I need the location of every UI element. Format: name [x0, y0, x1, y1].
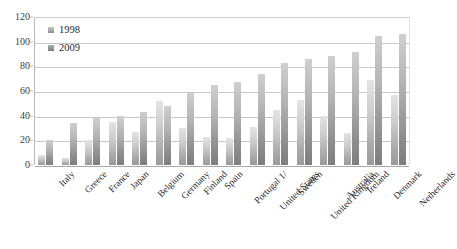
x-tick-label: Japan [129, 169, 151, 191]
y-tick-label: 40 [20, 111, 30, 121]
bar-group [316, 17, 340, 165]
bar-1998-united-kingdom [297, 100, 304, 165]
bar-group [175, 17, 199, 165]
bar-group [199, 17, 223, 165]
y-tick-label: 100 [15, 37, 30, 47]
bar-group [246, 17, 270, 165]
bar-2009-japan [117, 116, 124, 165]
legend-entry-2009: 2009 [48, 39, 118, 56]
y-tick-label: 60 [20, 86, 30, 96]
bar-1998-italy [38, 155, 45, 165]
bar-1998-spain [203, 137, 210, 165]
bar-2009-finland [187, 93, 194, 165]
bar-1998-belgium [132, 132, 139, 165]
bar-1998-united-states [250, 127, 257, 165]
bar-2009-ireland [352, 52, 359, 165]
bar-2009-united-states [258, 74, 265, 165]
bar-group [222, 17, 246, 165]
x-tick-label: France [106, 169, 131, 194]
bar-2009-netherlands [399, 34, 406, 165]
bar-1998-japan [109, 122, 116, 165]
bar-group [363, 17, 387, 165]
bar-1998-finland [179, 128, 186, 165]
bar-2009-united-kingdom [305, 59, 312, 165]
bar-group [128, 17, 152, 165]
bar-group [293, 17, 317, 165]
y-tick-mark [30, 115, 33, 116]
bar-group [152, 17, 176, 165]
y-tick-mark [30, 140, 33, 141]
bar-1998-germany [156, 101, 163, 165]
legend-entry-1998: 1998 [48, 21, 118, 38]
y-tick-mark [30, 66, 33, 67]
bar-2009-portugal-1 [234, 82, 241, 165]
bar-group [269, 17, 293, 165]
y-tick-label: 120 [15, 12, 30, 22]
y-axis: 020406080100120 [0, 17, 30, 165]
y-tick-mark [30, 17, 33, 18]
bar-1998-sweden [273, 110, 280, 166]
bar-1998-netherlands [391, 95, 398, 165]
y-tick-mark [30, 91, 33, 92]
legend-label: 1998 [59, 24, 80, 35]
bar-2009-france [93, 118, 100, 165]
y-tick-label: 80 [20, 61, 30, 71]
bar-2009-sweden [281, 63, 288, 165]
bar-1998-denmark [367, 80, 374, 165]
x-tick-label: Greece [83, 169, 109, 195]
bar-2009-greece [70, 123, 77, 165]
x-tick-label: Denmark [391, 169, 423, 201]
y-tick-mark [30, 41, 33, 42]
y-tick-mark [30, 165, 33, 166]
bar-2009-belgium [140, 112, 147, 165]
x-tick-label: Netherlands [418, 169, 457, 209]
bar-1998-greece [62, 158, 69, 165]
bar-2009-denmark [375, 36, 382, 166]
bar-2009-germany [164, 106, 171, 165]
bar-1998-australia [320, 116, 327, 165]
x-tick-label: Italy [57, 169, 76, 188]
bar-2009-italy [46, 140, 53, 165]
bar-1998-portugal-1 [226, 138, 233, 165]
y-tick-label: 20 [20, 135, 30, 145]
bar-2009-australia [328, 56, 335, 165]
legend-label: 2009 [59, 42, 80, 53]
bar-group [340, 17, 364, 165]
bar-group [387, 17, 411, 165]
bar-1998-ireland [344, 133, 351, 165]
chart-legend: 19982009 [48, 21, 118, 57]
bar-2009-spain [211, 85, 218, 165]
legend-swatch-icon [48, 27, 54, 33]
x-axis: ItalyGreeceFranceJapanBelgiumGermanyFinl… [34, 166, 410, 249]
legend-swatch-icon [48, 45, 54, 51]
bar-1998-france [85, 140, 92, 165]
